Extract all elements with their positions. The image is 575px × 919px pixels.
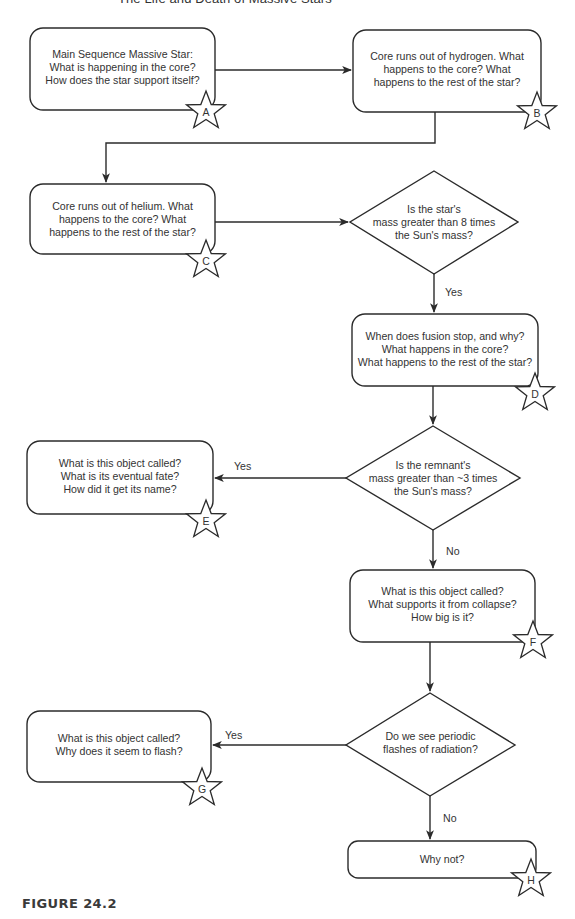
star-g-label: G [192,782,212,796]
decision-3-text: Do we see periodic flashes of radiation? [346,715,515,771]
node-b-line: happens to the rest of the star? [374,76,521,89]
decision-1-text: Is the star's mass greater than 8 times … [350,190,518,254]
figure-caption: FIGURE 24.2 [22,896,117,911]
star-e-label: E [196,514,216,528]
node-a-line: Main Sequence Massive Star: [52,48,193,61]
star-b-label: B [527,106,547,120]
node-d-text: When does fusion stop, and why? What hap… [352,314,538,384]
decision-1-line: the Sun's mass? [395,229,473,242]
star-h-label: H [521,873,541,887]
star-a-label: A [196,105,216,119]
node-h-text: Why not? [348,841,536,878]
node-d-line: When does fusion stop, and why? [365,330,524,343]
node-c-line: happens to the core? What [59,213,186,226]
node-e-line: How did it get its name? [63,483,176,496]
decision-1-line: mass greater than 8 times [373,216,495,229]
edge-label-d2-yes: Yes [234,460,251,472]
node-f-text: What is this object called? What support… [350,570,535,638]
edge-label-d3-yes: Yes [225,729,242,741]
node-e-line: What is this object called? [59,457,181,470]
node-g-line: What is this object called? [58,732,180,745]
node-b-line: happens to the core? What [383,63,510,76]
decision-2-line: the Sun's mass? [394,485,472,498]
node-d-line: What happens to the rest of the star? [358,356,532,369]
node-a-text: Main Sequence Massive Star: What is happ… [30,28,215,106]
star-f-label: F [523,635,543,649]
node-c-line: happens to the rest of the star? [49,226,196,239]
node-g-text: What is this object called? Why does it … [27,711,211,779]
decision-3-line: flashes of radiation? [383,743,478,756]
star-c-label: C [196,254,216,268]
decision-2-line: Is the remnant's [395,459,470,472]
edge-label-d3-no: No [443,812,457,824]
edge-label-d1-yes: Yes [445,286,462,298]
node-b-text: Core runs out of hydrogen. What happens … [353,30,541,108]
node-d-line: What happens in the core? [382,343,509,356]
node-f-line: How big is it? [411,611,474,624]
node-g-line: Why does it seem to flash? [55,745,182,758]
node-h-line: Why not? [420,853,465,866]
decision-2-text: Is the remnant's mass greater than ~3 ti… [346,446,520,510]
decision-3-line: Do we see periodic [385,730,475,743]
node-f-line: What is this object called? [381,585,503,598]
edge-label-d2-no: No [446,545,460,557]
node-c-line: Core runs out of helium. What [52,200,193,213]
node-e-line: What is its eventual fate? [61,470,179,483]
node-a-line: What is happening in the core? [49,61,195,74]
decision-1-line: Is the star's [407,203,461,216]
edge-b-to-c [106,112,435,182]
node-e-text: What is this object called? What is its … [27,441,213,512]
node-a-line: How does the star support itself? [45,74,199,87]
node-f-line: What supports it from collapse? [368,598,516,611]
decision-2-line: mass greater than ~3 times [369,472,498,485]
node-b-line: Core runs out of hydrogen. What [370,50,524,63]
star-d-label: D [525,387,545,401]
node-c-text: Core runs out of helium. What happens to… [30,184,215,254]
